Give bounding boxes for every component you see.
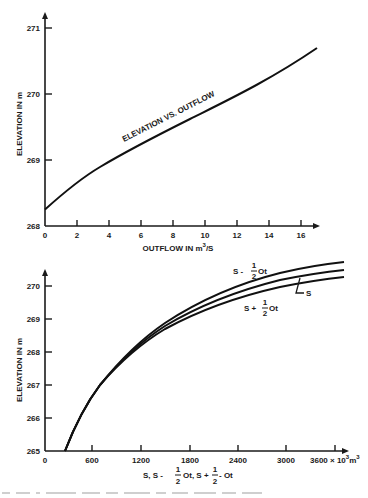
top-x-tick-label: 14 <box>265 231 274 240</box>
bottom-x-tick-label: 1800 <box>181 456 199 465</box>
top-y-tick-label: 268 <box>27 222 41 231</box>
bottom-y-tick-label: 268 <box>27 348 41 357</box>
svg-text:2: 2 <box>252 272 257 281</box>
top-x-tick-label: 4 <box>107 231 112 240</box>
bottom-x-title-mid: Ot, S + <box>183 471 209 480</box>
clipped-caption <box>0 492 368 498</box>
svg-text:S -: S - <box>233 267 244 276</box>
bottom-y-tick-label: 265 <box>27 447 41 456</box>
bottom-y-tick-label: 269 <box>27 315 41 324</box>
top-x-tick-label: 0 <box>43 231 48 240</box>
curve-s <box>65 270 344 451</box>
bottom-x-title-prefix: S, S - <box>143 471 163 480</box>
svg-text:1: 1 <box>213 465 218 474</box>
svg-text:1: 1 <box>263 298 268 307</box>
svg-text:2: 2 <box>176 477 181 486</box>
curve-label-elevation-vs-outflow: ELEVATION VS. OUTFLOW <box>121 89 217 144</box>
svg-text:2: 2 <box>213 477 218 486</box>
top-y-ticks: 271 270 269 268 <box>27 24 52 231</box>
top-y-axis-title: ELEVATION IN m <box>15 92 24 156</box>
bottom-y-tick-label: 270 <box>27 282 41 291</box>
top-x-tick-label: 16 <box>297 231 306 240</box>
top-x-axis-title: OUTFLOW IN m3/S <box>143 242 215 253</box>
bottom-x-tick-label: 600 <box>85 456 99 465</box>
bottom-y-ticks: 270 269 268 267 266 265 <box>27 282 52 456</box>
bottom-x-last-tick-label: 3600 × 103m3 <box>310 454 360 465</box>
bottom-x-title-suffix: - Ot <box>219 471 233 480</box>
bottom-x-tick-label: 1200 <box>132 456 150 465</box>
svg-text:S: S <box>306 289 312 298</box>
top-x-tick-label: 10 <box>201 231 210 240</box>
svg-text:1: 1 <box>176 465 181 474</box>
elevation-vs-outflow-curve <box>45 48 317 210</box>
top-y-tick-label: 271 <box>27 24 41 33</box>
svg-text:2: 2 <box>263 309 268 318</box>
top-x-tick-label: 2 <box>75 231 80 240</box>
figure-canvas: 271 270 269 268 0 2 4 6 8 10 12 14 16 EL… <box>0 0 368 498</box>
top-chart: 271 270 269 268 0 2 4 6 8 10 12 14 16 EL… <box>15 12 320 253</box>
bottom-y-tick-label: 266 <box>27 414 41 423</box>
bottom-x-ticks: 0 600 1200 1800 2400 3000 3600 × 103m3 <box>43 445 361 465</box>
top-y-tick-label: 269 <box>27 156 41 165</box>
svg-text:S +: S + <box>244 304 257 313</box>
top-x-tick-label: 8 <box>171 231 176 240</box>
svg-text:Ot: Ot <box>269 304 278 313</box>
bottom-x-axis-title: S, S - 1 2 Ot, S + 1 2 - Ot <box>143 465 233 486</box>
svg-text:Ot: Ot <box>258 267 267 276</box>
curve-s-plus-half-ot <box>65 277 344 451</box>
top-x-ticks: 0 2 4 6 8 10 12 14 16 <box>43 220 306 240</box>
top-x-tick-label: 6 <box>139 231 144 240</box>
bottom-x-tick-label: 0 <box>43 456 48 465</box>
top-y-axis-arrow-icon <box>42 12 48 19</box>
leader-line-icon <box>296 278 304 293</box>
svg-text:1: 1 <box>252 261 257 270</box>
curve-s-minus-half-ot <box>65 262 344 451</box>
bottom-y-axis-arrow-icon <box>42 269 48 276</box>
bottom-x-tick-label: 2400 <box>229 456 247 465</box>
top-x-axis-arrow-icon <box>313 223 320 229</box>
top-x-tick-label: 12 <box>233 231 242 240</box>
bottom-y-axis-title: ELEVATION IN m <box>15 338 24 402</box>
top-y-tick-label: 270 <box>27 90 41 99</box>
bottom-x-tick-label: 3000 <box>277 456 295 465</box>
bottom-chart: 270 269 268 267 266 265 0 600 1200 1800 … <box>15 261 360 486</box>
bottom-y-tick-label: 267 <box>27 381 41 390</box>
label-s-plus-half-ot: S + 1 2 Ot <box>244 298 278 318</box>
